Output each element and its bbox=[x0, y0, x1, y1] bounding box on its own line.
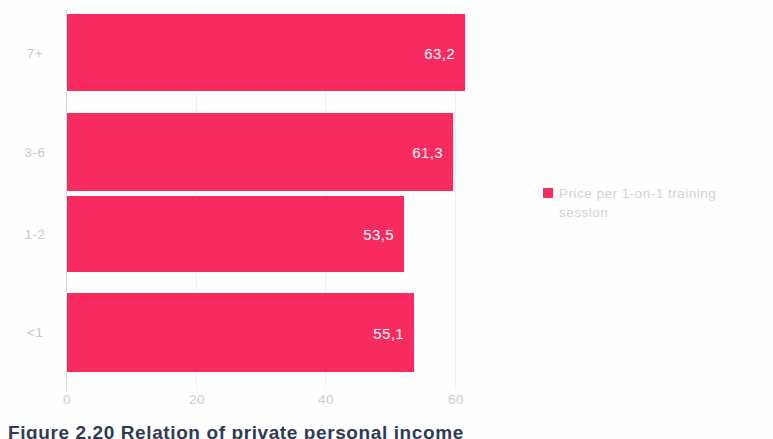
figure-caption: Figure 2.20 Relation of private personal… bbox=[8, 422, 608, 439]
x-tick-0: 0 bbox=[63, 392, 71, 407]
legend-label-line1: Price per 1-on-1 training bbox=[559, 186, 716, 201]
legend-label: Price per 1-on-1 trainingsession bbox=[559, 184, 716, 222]
category-label-under1: <1 bbox=[12, 325, 58, 340]
bar-3-6[interactable]: 61,3 bbox=[66, 113, 453, 191]
x-tick-60: 60 bbox=[448, 392, 464, 407]
y-axis-labels: 7+ 3-6 1-2 <1 bbox=[6, 10, 58, 390]
plot-area: 63,2 61,3 53,5 55,1 bbox=[66, 10, 466, 390]
category-label-3-6: 3-6 bbox=[12, 145, 58, 160]
bar-row[interactable]: 55,1 bbox=[66, 293, 414, 372]
x-tick-20: 20 bbox=[189, 392, 205, 407]
bar-value-label: 55,1 bbox=[373, 324, 404, 341]
category-label-1-2: 1-2 bbox=[12, 227, 58, 242]
legend-item[interactable]: Price per 1-on-1 trainingsession bbox=[543, 184, 763, 222]
bar-7plus[interactable]: 63,2 bbox=[66, 14, 465, 91]
bar-row[interactable]: 63,2 bbox=[66, 14, 465, 91]
legend-swatch-icon bbox=[543, 188, 553, 198]
x-axis-labels: 0 20 40 60 bbox=[0, 392, 520, 414]
bar-1-2[interactable]: 53,5 bbox=[66, 196, 404, 272]
bar-value-label: 53,5 bbox=[363, 226, 394, 243]
chart-figure: 63,2 61,3 53,5 55,1 7+ 3-6 1-2 <1 bbox=[0, 0, 773, 439]
category-label-7plus: 7+ bbox=[12, 46, 58, 61]
bar-value-label: 61,3 bbox=[412, 144, 443, 161]
bar-value-label: 63,2 bbox=[424, 44, 455, 61]
bar-row[interactable]: 61,3 bbox=[66, 113, 453, 191]
bar-under1[interactable]: 55,1 bbox=[66, 293, 414, 372]
legend-label-line2: session bbox=[559, 205, 608, 220]
bar-row[interactable]: 53,5 bbox=[66, 196, 404, 272]
x-tick-40: 40 bbox=[318, 392, 334, 407]
y-axis-line bbox=[66, 10, 67, 390]
chart-legend[interactable]: Price per 1-on-1 trainingsession bbox=[543, 184, 763, 222]
